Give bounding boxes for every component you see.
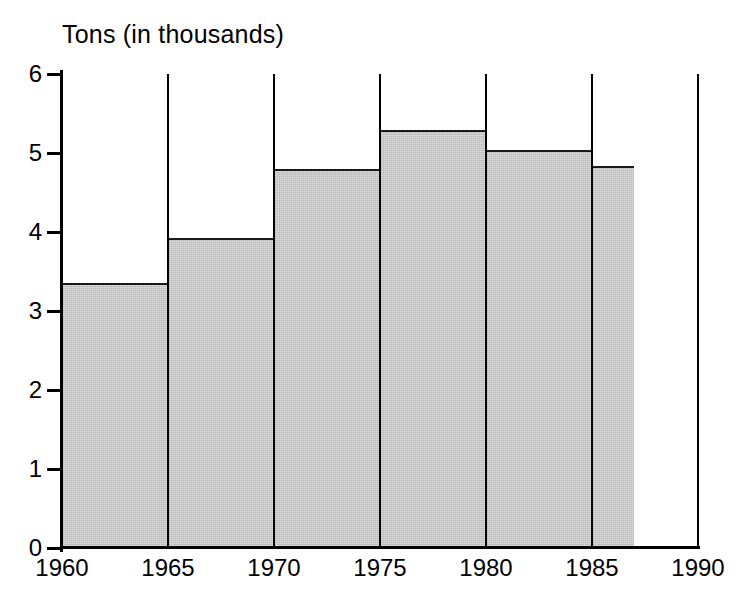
chart-title: Tons (in thousands) xyxy=(62,20,284,49)
y-axis-tick xyxy=(47,231,61,234)
gridline xyxy=(273,74,275,548)
bar xyxy=(168,238,274,548)
bar xyxy=(592,166,634,548)
y-axis-tick-label: 2 xyxy=(2,376,42,404)
gridline xyxy=(379,74,381,548)
gridline xyxy=(591,74,593,548)
bar xyxy=(486,150,592,548)
gridline xyxy=(485,74,487,548)
bar xyxy=(274,169,380,548)
y-axis-tick xyxy=(47,547,61,550)
y-axis-tick-label: 4 xyxy=(2,218,42,246)
y-axis-tick xyxy=(47,310,61,313)
x-axis-tick-label: 1965 xyxy=(141,554,194,582)
x-axis-tick-label: 1980 xyxy=(459,554,512,582)
y-axis-tick xyxy=(47,389,61,392)
x-axis-tick-label: 1960 xyxy=(35,554,88,582)
y-axis-tick-label: 3 xyxy=(2,297,42,325)
y-axis-tick-label: 1 xyxy=(2,455,42,483)
y-axis-line xyxy=(60,70,63,552)
x-axis-tick-label: 1990 xyxy=(671,554,724,582)
y-axis-tick-label: 6 xyxy=(2,60,42,88)
y-axis-tick xyxy=(47,468,61,471)
bar xyxy=(62,283,168,548)
x-axis-tick-label: 1985 xyxy=(565,554,618,582)
y-axis-labels: 0123456 xyxy=(0,0,42,601)
y-axis-tick xyxy=(47,152,61,155)
bar-chart: Tons (in thousands) 0123456 196019651970… xyxy=(0,0,743,601)
gridline xyxy=(697,74,699,548)
x-axis-line xyxy=(60,546,700,549)
gridline xyxy=(167,74,169,548)
bar xyxy=(380,130,486,548)
x-axis-tick-label: 1975 xyxy=(353,554,406,582)
y-axis-tick xyxy=(47,73,61,76)
y-axis-tick-label: 5 xyxy=(2,139,42,167)
x-axis-tick-label: 1970 xyxy=(247,554,300,582)
